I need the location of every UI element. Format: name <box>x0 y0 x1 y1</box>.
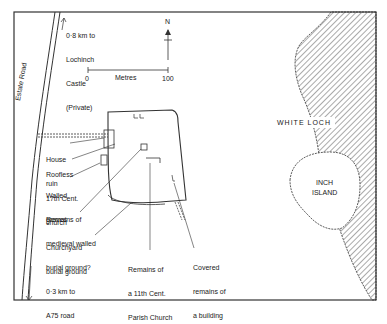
churchyard-enclosure <box>108 110 186 203</box>
covered-building-label: Covered remains of a building <box>193 248 226 324</box>
track <box>38 134 108 137</box>
walled-graves <box>141 144 147 150</box>
churchyard-label: Churchyard burial ground <box>46 228 87 284</box>
parish-church-label: Remains of a 11th Cent. Parish Church <box>128 250 172 324</box>
inch-island-label-2: ISLAND <box>312 189 337 197</box>
roofless-church <box>101 155 107 165</box>
scale-end: 100 <box>162 75 174 83</box>
house-ruin <box>104 130 114 148</box>
scale-unit: Metres <box>115 74 136 82</box>
white-loch-label: WHITE LOCH <box>273 117 335 128</box>
castle-label: 0·8 km to Lochinch Castle (Private) <box>66 16 95 120</box>
inch-island-label-1: INCH <box>316 179 333 187</box>
parish-church-remains <box>146 158 160 163</box>
north-label: N <box>165 18 170 26</box>
